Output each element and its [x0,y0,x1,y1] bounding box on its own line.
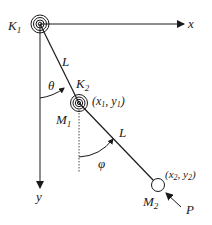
double-pendulum-diagram: x y L L θ φ K1 K2 M1 (x1, y1) M2 (x2, y2… [0,0,212,225]
theta-label: θ [48,78,55,93]
force-p-arrow [166,193,181,207]
phi-label: φ [98,156,105,171]
link-2 [79,103,154,181]
mass-m1-coordinates: (x1, y1) [92,94,125,109]
link-1-label: L [61,54,69,69]
spring-k1-label: K1 [7,18,21,35]
phi-arc [79,139,113,157]
mass-m1-label: M1 [55,112,71,129]
mass-m2-label: M2 [142,194,159,211]
mass-m2-coordinates: (x2, y2) [165,168,196,182]
mass-m2-icon [152,179,165,192]
x-axis-label: x [187,16,194,31]
force-p-label: P [185,202,194,217]
link-2-label: L [118,125,126,140]
spring-k2-label: K2 [75,76,90,93]
y-axis-label: y [34,189,42,204]
